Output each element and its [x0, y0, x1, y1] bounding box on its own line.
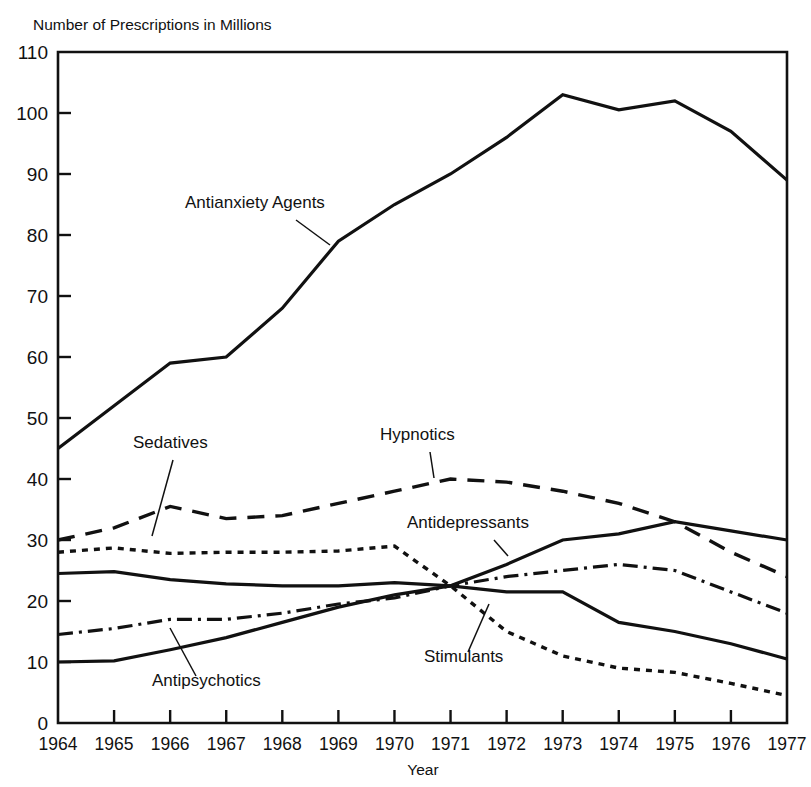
y-tick-label: 100 [16, 103, 48, 124]
data-series-group [58, 95, 787, 696]
x-tick-label: 1973 [543, 734, 582, 754]
y-tick-label: 10 [27, 652, 48, 673]
x-tick-label: 1977 [768, 734, 807, 754]
x-tick-label: 1965 [95, 734, 134, 754]
series-annotation-antipsychotics: Antipsychotics [152, 671, 261, 690]
x-axis: 1964196519661967196819691970197119721973… [39, 710, 807, 754]
y-tick-label: 80 [27, 225, 48, 246]
y-tick-label: 70 [27, 286, 48, 307]
leader-antidepressants [494, 540, 508, 556]
series-annotation-sedatives: Sedatives [133, 433, 208, 452]
x-tick-label: 1969 [319, 734, 358, 754]
y-tick-label: 30 [27, 530, 48, 551]
x-tick-label: 1974 [599, 734, 638, 754]
y-tick-label: 110 [18, 42, 48, 63]
leader-antianxiety [296, 220, 330, 245]
x-tick-label: 1968 [263, 734, 302, 754]
series-line-sedatives [58, 586, 787, 662]
y-tick-label: 50 [27, 408, 48, 429]
series-annotation-antidepressants: Antidepressants [407, 513, 529, 532]
y-tick-label: 90 [27, 164, 48, 185]
chart-title: Number of Prescriptions in Millions [33, 16, 272, 33]
series-annotation-hypnotics: Hypnotics [380, 425, 455, 444]
leader-antipsychotics [170, 628, 196, 676]
x-tick-label: 1970 [375, 734, 414, 754]
chart-figure: Number of Prescriptions in Millions 0102… [0, 0, 811, 787]
y-axis: 0102030405060708090100110 [16, 42, 71, 734]
series-line-antianxiety-agents [58, 95, 787, 449]
leader-stimulants [468, 604, 489, 652]
plot-frame [58, 52, 787, 723]
x-tick-label: 1971 [431, 734, 470, 754]
leader-sedatives [152, 460, 173, 536]
prescriptions-line-chart: Number of Prescriptions in Millions 0102… [0, 0, 811, 787]
leader-hypnotics [430, 452, 434, 478]
annotation-labels: Antianxiety AgentsSedativesHypnoticsAnti… [133, 193, 529, 690]
x-tick-label: 1975 [655, 734, 694, 754]
y-tick-label: 0 [37, 713, 48, 734]
series-line-antipsychotics [58, 564, 787, 634]
series-annotation-stimulants: Stimulants [424, 647, 503, 666]
x-tick-label: 1966 [151, 734, 190, 754]
y-tick-label: 20 [27, 591, 48, 612]
x-axis-title: Year [407, 761, 438, 778]
y-tick-label: 60 [27, 347, 48, 368]
y-tick-label: 40 [27, 469, 48, 490]
x-tick-label: 1972 [487, 734, 526, 754]
x-tick-label: 1964 [39, 734, 78, 754]
series-annotation-antianxiety-agents: Antianxiety Agents [185, 193, 325, 212]
x-tick-label: 1976 [711, 734, 750, 754]
x-tick-label: 1967 [207, 734, 246, 754]
